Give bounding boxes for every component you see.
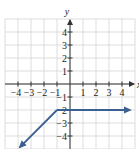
tick-labels: yx−4−3−2−112344321−1−2−3−4 — [11, 6, 139, 142]
y-axis-label: y — [64, 6, 70, 17]
x-axis-label: x — [136, 79, 139, 90]
axes — [5, 20, 134, 149]
x-tick-label: −3 — [24, 87, 35, 98]
graph: yx−4−3−2−112344321−1−2−3−4 — [0, 0, 139, 149]
y-tick-label: −4 — [56, 131, 67, 142]
y-tick-label: 4 — [62, 27, 67, 38]
y-tick-label: −1 — [56, 92, 67, 103]
data-series — [20, 110, 130, 147]
x-tick-label: 1 — [81, 87, 86, 98]
y-tick-label: 2 — [62, 53, 67, 64]
y-tick-label: −3 — [56, 118, 67, 129]
x-tick-label: −2 — [37, 87, 48, 98]
x-tick-label: 3 — [107, 87, 112, 98]
x-tick-label: 2 — [94, 87, 99, 98]
y-tick-label: 1 — [62, 66, 67, 77]
y-tick-label: 3 — [62, 40, 67, 51]
series-line-left-ray — [20, 110, 57, 147]
x-tick-label: 4 — [120, 87, 125, 98]
x-tick-label: −4 — [11, 87, 22, 98]
